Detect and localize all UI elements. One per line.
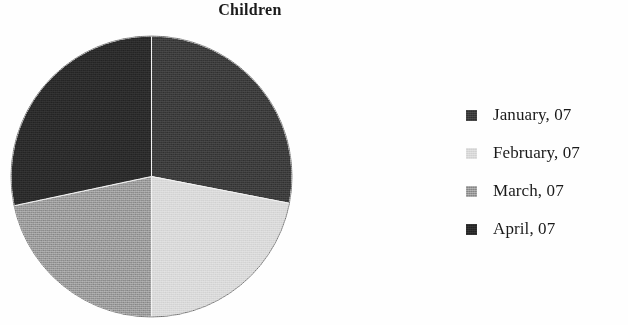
- pie-svg: [10, 35, 293, 318]
- legend-item-label: March, 07: [493, 181, 564, 201]
- chart-legend: January, 07February, 07March, 07April, 0…: [466, 96, 628, 248]
- legend-item-label: January, 07: [493, 105, 571, 125]
- pie-slice-group: [11, 36, 292, 317]
- chart-title: Children: [150, 1, 350, 19]
- legend-swatch-grain: [466, 148, 477, 159]
- pie-slice[interactable]: [152, 36, 292, 203]
- legend-swatch-grain: [466, 224, 477, 235]
- legend-item-label: February, 07: [493, 143, 580, 163]
- legend-item-label: April, 07: [493, 219, 555, 239]
- legend-swatch-icon: [466, 224, 477, 235]
- legend-item[interactable]: February, 07: [466, 134, 628, 172]
- pie-chart-figure: Children January, 07February, 07March, 0…: [0, 0, 628, 325]
- legend-swatch-grain: [466, 186, 477, 197]
- legend-item[interactable]: April, 07: [466, 210, 628, 248]
- pie-chart-plot-area: [10, 35, 293, 318]
- legend-swatch-icon: [466, 110, 477, 121]
- legend-swatch-icon: [466, 148, 477, 159]
- legend-item[interactable]: March, 07: [466, 172, 628, 210]
- legend-item[interactable]: January, 07: [466, 96, 628, 134]
- pie-slice[interactable]: [11, 36, 152, 206]
- legend-swatch-icon: [466, 186, 477, 197]
- legend-swatch-grain: [466, 110, 477, 121]
